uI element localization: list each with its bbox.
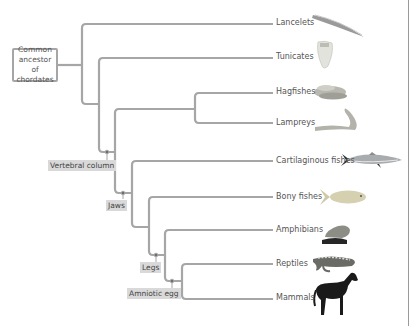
leaf-label-lampreys: Lampreys [276,118,315,128]
character-label-legs: Legs [140,262,161,273]
lancelet-icon [312,15,364,37]
leaf-label-cartilaginous-fishes: Cartilaginous fishes [276,156,355,166]
tunicate-icon [318,41,333,68]
leaf-label-amphibians: Amphibians [276,225,323,235]
hagfish-icon [314,85,347,100]
lamprey-icon [315,109,357,132]
bony-fish-icon [320,189,366,205]
leaf-label-hagfishes: Hagfishes [276,87,315,97]
character-label-jaws: Jaws [106,200,127,211]
common-ancestor-box: Common ancestor of chordates [12,48,58,82]
horse-icon [314,273,358,315]
lizard-icon [313,257,355,272]
leaf-label-mammals: Mammals [276,293,315,303]
leaf-label-lancelets: Lancelets [276,18,314,28]
leaf-label-bony-fishes: Bony fishes [276,192,322,202]
root-label-line-2: ancestor of [14,55,56,75]
leaf-label-tunicates: Tunicates [276,52,314,62]
phylogenetic-tree-diagram: Common ancestor of chordates Lancelets T… [0,0,410,326]
frog-icon [322,226,350,245]
root-label-line-1: Common [14,45,56,55]
leaf-label-reptiles: Reptiles [276,259,308,269]
character-label-amniotic-egg: Amniotic egg [127,288,181,299]
root-label-line-3: chordates [14,75,56,85]
character-label-vertebral-column: Vertebral column [48,160,116,171]
frame-border [408,0,409,326]
